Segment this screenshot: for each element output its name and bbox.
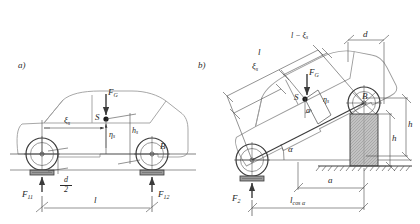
dimension-h-inner-label-b: h xyxy=(392,134,397,143)
dimension-a-label-b: a xyxy=(328,176,333,185)
technical-figure: a) FG S B ξs ηs hs F11 F12 d 2 l xyxy=(0,0,420,224)
angle-alpha-incline-b xyxy=(281,144,284,160)
dimension-l-minus-xi-label-b: l − ξs xyxy=(291,32,308,41)
dimension-xi-s-label-b: ξs xyxy=(252,62,258,73)
dimension-group-incline-b xyxy=(223,45,364,160)
dimension-h-outer-label-b: h xyxy=(408,120,413,129)
dimension-eta-s-label-b: ηs xyxy=(323,96,329,105)
cg-label-b: S xyxy=(294,93,299,102)
force-f2-label-b: F2 xyxy=(232,194,240,205)
point-b-label-b: B xyxy=(362,92,368,101)
tire-contact-patch-front-b xyxy=(240,176,264,181)
dimension-l-cos-alpha-b xyxy=(248,190,368,212)
dimension-l-cos-alpha-label-b: lcos α xyxy=(290,196,305,207)
force-weight-label-b: FG xyxy=(309,68,319,79)
angle-alpha-incline-label-b: α xyxy=(288,145,293,154)
angle-alpha-cg-label-b: α xyxy=(306,107,310,115)
panel-b-id: b) xyxy=(198,60,206,70)
panel-b-drawing xyxy=(0,0,420,224)
dimension-length-l-label-b: l xyxy=(258,48,261,57)
obstacle-block-b xyxy=(350,114,378,166)
dimension-d-label-b: d xyxy=(363,30,368,39)
